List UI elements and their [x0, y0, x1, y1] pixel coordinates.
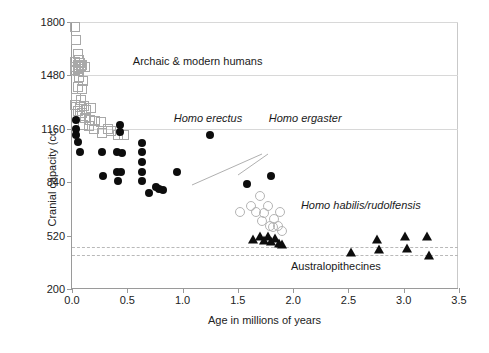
data-point-circle-filled [138, 177, 146, 185]
x-tick-label: 3.0 [396, 294, 411, 306]
y-tick-mark [67, 182, 72, 183]
gridline [72, 75, 458, 76]
data-point-square-open [70, 22, 80, 32]
data-point-circle-open [235, 207, 245, 217]
x-tick-mark [72, 288, 73, 293]
x-tick-label: 1.0 [175, 294, 190, 306]
y-tick-mark [67, 75, 72, 76]
data-point-circle-filled [98, 148, 106, 156]
data-point-circle-filled [159, 186, 167, 194]
plot-annotation: Archaic & modern humans [133, 55, 263, 67]
data-point-circle-filled [117, 168, 125, 176]
data-point-triangle [402, 244, 412, 253]
data-point-square-open [71, 35, 81, 45]
data-point-circle-filled [138, 168, 146, 176]
data-point-circle-filled [138, 148, 146, 156]
gridline [72, 129, 458, 130]
dashed-reference-line [72, 255, 458, 256]
data-point-triangle [374, 244, 384, 253]
y-tick-label: 1480 [41, 69, 65, 81]
x-tick-mark [183, 288, 184, 293]
plot-annotation: Homo habilis/rudolfensis [301, 199, 421, 211]
x-axis-title: Age in millions of years [71, 314, 458, 326]
y-tick-label: 1800 [41, 16, 65, 28]
x-tick-mark [127, 288, 128, 293]
data-point-triangle [422, 231, 432, 240]
x-tick-label: 2.5 [341, 294, 356, 306]
data-point-circle-filled [173, 168, 181, 176]
data-point-circle-filled [74, 138, 82, 146]
data-point-circle-filled [114, 177, 122, 185]
data-point-square-open [80, 62, 90, 72]
y-tick-label: 1160 [41, 123, 65, 135]
data-point-triangle [424, 250, 434, 259]
x-tick-mark [348, 288, 349, 293]
plot-annotation: Homo erectus [174, 112, 242, 124]
x-tick-label: 0.0 [64, 294, 79, 306]
data-point-circle-filled [118, 149, 126, 157]
x-tick-mark [238, 288, 239, 293]
data-point-triangle [400, 231, 410, 240]
data-point-circle-filled [206, 131, 214, 139]
data-point-circle-filled [76, 148, 84, 156]
data-point-square-open [86, 103, 96, 113]
data-point-circle-filled [145, 189, 153, 197]
data-point-circle-filled [99, 172, 107, 180]
x-tick-label: 0.5 [120, 294, 135, 306]
data-point-circle-open [263, 201, 273, 211]
y-tick-label: 840 [47, 176, 65, 188]
plot-area: 200520840116014801800 0.00.51.01.52.02.5… [71, 22, 458, 289]
data-point-circle-filled [138, 139, 146, 147]
data-point-circle-filled [116, 128, 124, 136]
data-point-circle-filled [72, 116, 80, 124]
data-point-triangle [346, 248, 356, 257]
x-tick-mark [293, 288, 294, 293]
plot-annotation: Australopithecines [291, 260, 381, 272]
x-tick-label: 3.5 [451, 294, 466, 306]
x-tick-label: 1.5 [230, 294, 245, 306]
dashed-reference-line [72, 247, 458, 248]
y-tick-label: 520 [47, 230, 65, 242]
plot-annotation: Homo ergaster [269, 112, 342, 124]
data-point-circle-filled [243, 180, 251, 188]
x-tick-mark [459, 288, 460, 293]
x-tick-label: 2.0 [285, 294, 300, 306]
x-tick-mark [404, 288, 405, 293]
gridline [72, 22, 458, 23]
data-point-circle-open [275, 207, 285, 217]
data-point-circle-filled [267, 172, 275, 180]
data-point-circle-open [255, 191, 265, 201]
data-point-triangle [372, 234, 382, 243]
data-point-triangle [277, 239, 287, 248]
ergaster-leader-lines [72, 22, 459, 289]
cranial-capacity-scatter-figure: Cranial capacity (cc; Age in millions of… [0, 0, 489, 353]
data-point-circle-filled [138, 158, 146, 166]
y-tick-label: 200 [47, 283, 65, 295]
y-tick-mark [67, 236, 72, 237]
y-tick-mark [67, 129, 72, 130]
